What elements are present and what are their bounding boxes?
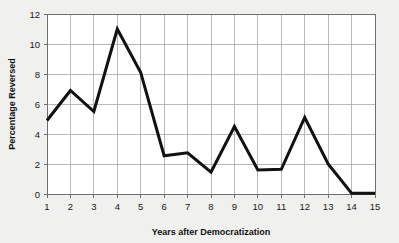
chart-canvas: 024681012 123456789101112131415 Years af… — [0, 0, 399, 243]
y-tick-label: 12 — [29, 9, 40, 20]
x-tick-label: 10 — [253, 201, 264, 212]
x-tick-label: 1 — [44, 201, 49, 212]
x-tick-label: 3 — [91, 201, 96, 212]
x-tick-label: 6 — [161, 201, 166, 212]
y-tick-label: 2 — [35, 159, 40, 170]
y-tick-label: 6 — [35, 99, 40, 110]
x-tick-label: 9 — [232, 201, 237, 212]
y-tick-label: 0 — [35, 189, 40, 200]
y-axis-tick-labels: 024681012 — [29, 9, 40, 200]
y-tick-label: 8 — [35, 69, 40, 80]
x-tick-label: 14 — [346, 201, 357, 212]
x-tick-label: 8 — [208, 201, 213, 212]
x-tick-label: 15 — [370, 201, 381, 212]
x-tick-label: 5 — [138, 201, 143, 212]
x-tick-label: 12 — [299, 201, 310, 212]
x-tick-label: 2 — [68, 201, 73, 212]
y-tick-label: 4 — [35, 129, 40, 140]
x-tick-label: 7 — [185, 201, 190, 212]
x-tick-label: 13 — [323, 201, 334, 212]
line-chart-figure: 024681012 123456789101112131415 Years af… — [0, 0, 399, 243]
x-tick-label: 11 — [276, 201, 286, 212]
y-tick-label: 10 — [29, 39, 40, 50]
x-tick-label: 4 — [115, 201, 120, 212]
x-axis-tick-marks — [47, 194, 375, 198]
x-axis-title: Years after Democratization — [152, 227, 271, 237]
x-axis-tick-labels: 123456789101112131415 — [44, 201, 380, 212]
y-axis-title: Percentage Reversed — [7, 58, 17, 150]
